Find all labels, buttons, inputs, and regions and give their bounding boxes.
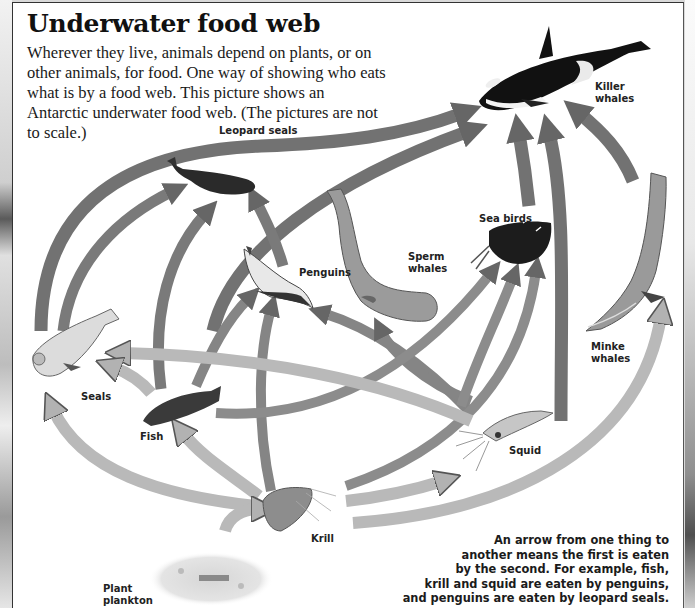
- label-leopard-seals: Leopard seals: [219, 125, 297, 137]
- label-killer-whales: Killer whales: [595, 81, 634, 105]
- arrow-sperm-to-killer-whales: [549, 133, 562, 421]
- left-page-edge: [0, 0, 12, 608]
- label-sea-birds: Sea birds: [479, 213, 532, 225]
- label-minke-whales: Minke whales: [591, 341, 630, 365]
- intro-text: Wherever they live, animals depend on pl…: [27, 43, 387, 143]
- food-web-panel: Underwater food web Wherever they live, …: [12, 2, 684, 608]
- arrow-sea-birds-to-killer-whales: [519, 133, 529, 206]
- label-penguins: Penguins: [299, 267, 351, 279]
- page-title: Underwater food web: [27, 9, 320, 38]
- arrow-minke-to-killer-whales: [579, 113, 633, 181]
- label-seals: Seals: [81, 391, 111, 403]
- label-fish: Fish: [140, 431, 163, 443]
- sea-bird-icon: [471, 219, 551, 269]
- fish-icon: [143, 386, 221, 426]
- label-squid: Squid: [509, 445, 541, 457]
- caption-text: An arrow from one thing to another means…: [369, 533, 669, 606]
- label-sperm-whales: Sperm whales: [408, 251, 447, 275]
- arrow-plankton-to-krill: [225, 509, 259, 531]
- arrow-krill-to-fish: [183, 433, 259, 496]
- plankton-icon: [149, 552, 273, 606]
- krill-icon: [263, 488, 336, 532]
- label-krill: Krill: [311, 533, 334, 545]
- arrow-krill-to-penguins: [261, 309, 271, 491]
- right-page-edge: [685, 0, 695, 608]
- arrows-light: [53, 316, 661, 531]
- arrow-fish-to-seals: [113, 367, 151, 393]
- label-plant-plankton: Plant plankton: [103, 583, 153, 607]
- minke-whale-icon: [586, 173, 666, 331]
